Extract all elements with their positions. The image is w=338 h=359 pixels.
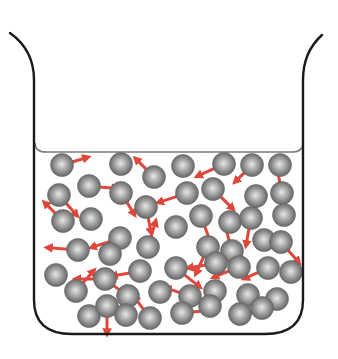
velocity-arrow-icon: [220, 196, 233, 209]
particle: [78, 175, 101, 198]
particle: [139, 307, 162, 330]
particle: [165, 216, 188, 239]
particle: [51, 154, 74, 177]
particle: [229, 303, 252, 326]
particle: [257, 257, 280, 280]
particle: [80, 208, 103, 231]
velocity-arrow-icon: [197, 168, 214, 176]
beaker-diagram: [0, 0, 338, 359]
particle: [280, 261, 303, 284]
velocity-arrow-icon: [188, 265, 206, 268]
particle: [228, 256, 251, 279]
particles: [45, 153, 303, 330]
particle: [240, 207, 263, 230]
particle: [135, 196, 158, 219]
velocity-arrow-icon: [135, 158, 146, 169]
velocity-arrow-icon: [235, 172, 245, 182]
particle: [52, 210, 75, 233]
particle: [149, 281, 172, 304]
velocity-arrow-icon: [72, 157, 88, 162]
particle: [48, 184, 71, 207]
diagram-canvas: [0, 0, 338, 359]
velocity-arrow-icon: [158, 196, 177, 202]
particle: [115, 304, 138, 327]
particle: [271, 182, 294, 205]
velocity-arrow-icon: [127, 202, 135, 215]
particle: [143, 166, 166, 189]
particle: [202, 178, 225, 201]
velocity-arrow-icon: [246, 228, 249, 246]
velocity-arrow-icon: [148, 217, 151, 233]
particle: [165, 257, 188, 280]
particle: [129, 260, 152, 283]
velocity-arrow-icon: [83, 270, 94, 283]
particle: [270, 231, 293, 254]
velocity-arrow-icon: [47, 248, 68, 250]
particle: [171, 302, 194, 325]
particle: [205, 252, 228, 275]
particle: [67, 239, 90, 262]
particle: [273, 204, 296, 227]
particle: [137, 236, 160, 259]
particle: [199, 295, 222, 318]
particle: [190, 205, 213, 228]
particle: [241, 154, 264, 177]
particle: [269, 154, 292, 177]
particle: [99, 243, 122, 266]
particle: [110, 153, 133, 176]
particle: [251, 297, 274, 320]
particle: [172, 155, 195, 178]
particle: [219, 211, 242, 234]
liquid-surface: [35, 143, 303, 152]
particle: [110, 182, 133, 205]
particle: [65, 280, 88, 303]
particle: [45, 264, 68, 287]
particle: [213, 153, 236, 176]
particle: [94, 268, 117, 291]
particle: [245, 185, 268, 208]
particle: [176, 182, 199, 205]
